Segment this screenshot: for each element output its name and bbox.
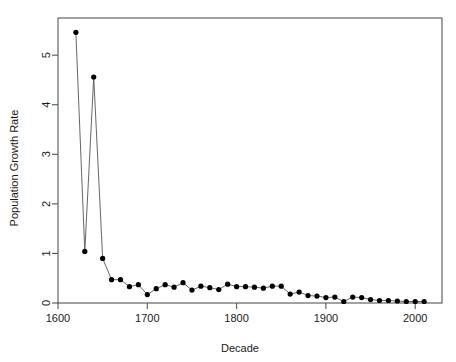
data-point xyxy=(207,285,212,290)
data-point xyxy=(386,298,391,303)
data-point xyxy=(118,277,123,282)
y-tick-label: 2 xyxy=(40,201,52,207)
data-point xyxy=(243,284,248,289)
data-point xyxy=(189,288,194,293)
y-tick-label: 3 xyxy=(40,151,52,157)
data-point xyxy=(225,282,230,287)
data-point xyxy=(100,256,105,261)
y-tick-label: 0 xyxy=(40,300,52,306)
population-growth-rate-chart: 012345 16001700180019002000 Decade Popul… xyxy=(0,0,456,362)
data-point xyxy=(332,294,337,299)
data-point xyxy=(368,297,373,302)
x-tick-label: 1700 xyxy=(135,312,159,324)
data-point xyxy=(136,282,141,287)
x-tick-label: 1600 xyxy=(46,312,70,324)
data-point xyxy=(323,295,328,300)
data-point xyxy=(413,299,418,304)
data-point xyxy=(404,299,409,304)
data-point xyxy=(198,284,203,289)
data-point xyxy=(73,30,78,35)
data-point xyxy=(145,292,150,297)
data-point xyxy=(216,287,221,292)
data-point xyxy=(171,285,176,290)
data-point xyxy=(270,284,275,289)
data-point xyxy=(377,298,382,303)
data-point xyxy=(82,249,87,254)
x-axis-title: Decade xyxy=(221,342,259,354)
data-point xyxy=(154,286,159,291)
data-point xyxy=(252,285,257,290)
data-point xyxy=(91,74,96,79)
data-point xyxy=(127,284,132,289)
data-point xyxy=(350,294,355,299)
data-point xyxy=(314,293,319,298)
x-tick-label: 1900 xyxy=(314,312,338,324)
y-tick-label: 4 xyxy=(40,102,52,108)
data-point xyxy=(395,298,400,303)
data-point xyxy=(341,299,346,304)
chart-background xyxy=(0,0,456,362)
data-point xyxy=(261,286,266,291)
y-tick-label: 1 xyxy=(40,250,52,256)
x-tick-label: 2000 xyxy=(403,312,427,324)
data-point xyxy=(180,280,185,285)
y-tick-label: 5 xyxy=(40,52,52,58)
chart-container: 012345 16001700180019002000 Decade Popul… xyxy=(0,0,456,362)
data-point xyxy=(297,290,302,295)
y-axis-title: Population Growth Rate xyxy=(8,110,20,227)
data-point xyxy=(163,282,168,287)
data-point xyxy=(109,277,114,282)
data-point xyxy=(359,295,364,300)
data-point xyxy=(305,293,310,298)
data-point xyxy=(279,284,284,289)
data-point xyxy=(288,291,293,296)
data-point xyxy=(234,284,239,289)
x-tick-label: 1800 xyxy=(224,312,248,324)
data-point xyxy=(422,299,427,304)
